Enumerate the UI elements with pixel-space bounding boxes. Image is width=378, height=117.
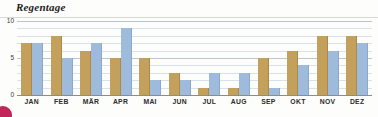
bar-group-jul bbox=[194, 21, 224, 95]
rain-days-chart-widget: Regentage 0510 JANFEBMÄRAPRMAIJUNJULAUGS… bbox=[0, 0, 378, 117]
bar-group-sep bbox=[254, 21, 284, 95]
x-tick-label-mai: MAI bbox=[135, 98, 165, 112]
x-tick-label-okt: OKT bbox=[283, 98, 313, 112]
bar-group-feb bbox=[47, 21, 77, 95]
gridline-0 bbox=[17, 95, 372, 96]
bar-jul-series-b bbox=[209, 73, 220, 95]
bar-group-apr bbox=[106, 21, 136, 95]
x-tick-label-dez: DEZ bbox=[342, 98, 372, 112]
bar-apr-series-b bbox=[121, 28, 132, 95]
bar-groups bbox=[17, 21, 372, 95]
bar-group-okt bbox=[283, 21, 313, 95]
bar-mai-series-b bbox=[150, 80, 161, 95]
bar-nov-series-b bbox=[328, 51, 339, 95]
bar-sep-series-a bbox=[258, 58, 269, 95]
bar-mär-series-b bbox=[91, 43, 102, 95]
bar-sep-series-b bbox=[269, 88, 280, 95]
bar-jul-series-a bbox=[198, 88, 209, 95]
bar-mär-series-a bbox=[80, 51, 91, 95]
x-tick-label-jul: JUL bbox=[194, 98, 224, 112]
bar-nov-series-a bbox=[317, 36, 328, 95]
x-tick-label-sep: SEP bbox=[254, 98, 284, 112]
y-tick-label-10: 10 bbox=[7, 18, 14, 25]
bar-mai-series-a bbox=[139, 58, 150, 95]
x-tick-label-aug: AUG bbox=[224, 98, 254, 112]
bar-feb-series-a bbox=[51, 36, 62, 95]
x-tick-label-apr: APR bbox=[106, 98, 136, 112]
bar-aug-series-b bbox=[239, 73, 250, 95]
bar-apr-series-a bbox=[110, 58, 121, 95]
chart-title: Regentage bbox=[16, 1, 65, 13]
bar-group-jun bbox=[165, 21, 195, 95]
bar-feb-series-b bbox=[62, 58, 73, 95]
bar-jan-series-a bbox=[21, 43, 32, 95]
bar-group-mai bbox=[135, 21, 165, 95]
x-axis: JANFEBMÄRAPRMAIJUNJULAUGSEPOKTNOVDEZ bbox=[17, 98, 372, 112]
bar-group-jan bbox=[17, 21, 47, 95]
bar-jan-series-b bbox=[32, 43, 43, 95]
title-divider bbox=[0, 17, 378, 18]
bar-group-aug bbox=[224, 21, 254, 95]
bar-jun-series-a bbox=[169, 73, 180, 95]
bar-dez-series-a bbox=[346, 36, 357, 95]
bar-group-nov bbox=[313, 21, 343, 95]
y-tick-label-0: 0 bbox=[10, 92, 14, 99]
bar-dez-series-b bbox=[357, 43, 368, 95]
plot-area bbox=[17, 21, 372, 95]
bar-okt-series-b bbox=[298, 65, 309, 95]
bar-aug-series-a bbox=[228, 88, 239, 95]
bar-okt-series-a bbox=[287, 51, 298, 95]
bar-group-mär bbox=[76, 21, 106, 95]
magenta-circle-icon bbox=[0, 106, 12, 117]
x-tick-label-jun: JUN bbox=[165, 98, 195, 112]
y-axis: 0510 bbox=[0, 21, 17, 95]
x-tick-label-feb: FEB bbox=[47, 98, 77, 112]
bar-jun-series-b bbox=[180, 80, 191, 95]
x-tick-label-nov: NOV bbox=[313, 98, 343, 112]
x-tick-label-mär: MÄR bbox=[76, 98, 106, 112]
x-tick-label-jan: JAN bbox=[17, 98, 47, 112]
bar-group-dez bbox=[342, 21, 372, 95]
y-tick-label-5: 5 bbox=[10, 55, 14, 62]
